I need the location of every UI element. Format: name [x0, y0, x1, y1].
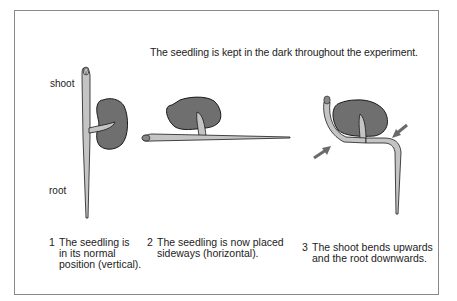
- stem-2: [142, 134, 290, 141]
- caption-number: 2: [147, 237, 153, 248]
- arrow-icon-right: [392, 125, 407, 138]
- root-3: [366, 138, 401, 214]
- caption-number: 1: [49, 237, 55, 248]
- caption-text: The seedling is now placed sideways (hor…: [157, 237, 284, 259]
- seedling-vertical: [82, 67, 128, 218]
- caption-number: 3: [302, 242, 308, 253]
- caption-text: The shoot bends upwards and the root dow…: [312, 242, 433, 264]
- caption-text: The seedling is in its normal position (…: [59, 237, 141, 270]
- arrow-icon-left: [314, 146, 331, 158]
- stem-1: [82, 68, 90, 218]
- seed-2: [167, 97, 221, 129]
- seedling-bent: [314, 96, 407, 214]
- seedling-horizontal: [142, 97, 290, 141]
